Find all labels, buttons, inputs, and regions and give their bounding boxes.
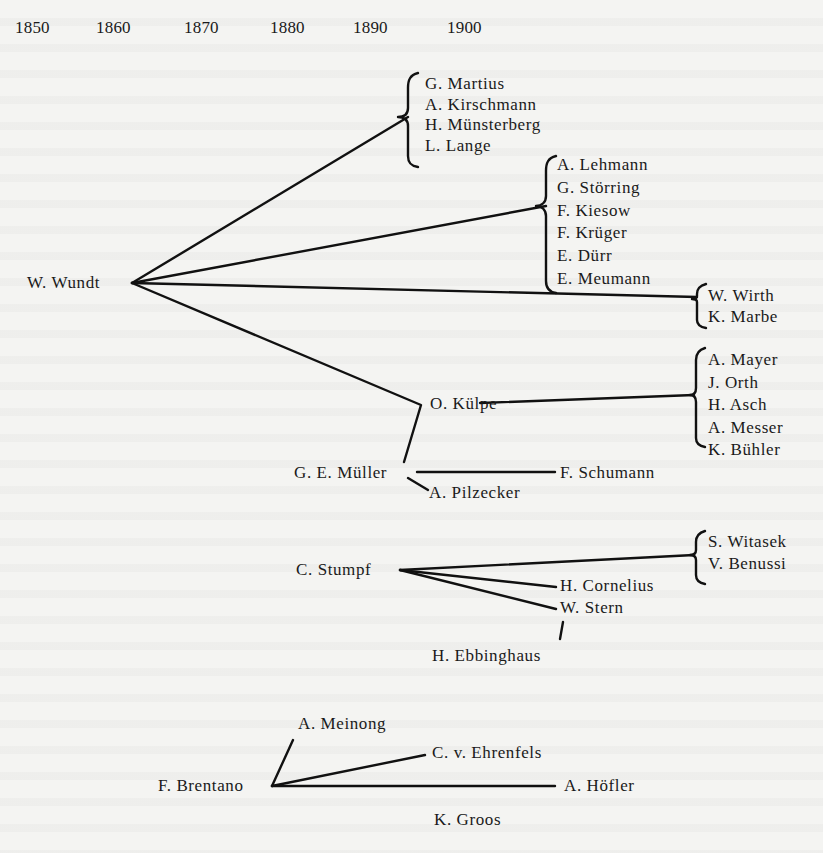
- node-ehrenfels: C. v. Ehrenfels: [432, 743, 542, 763]
- node-lehmann: A. Lehmann: [557, 154, 651, 177]
- node-schumann: F. Schumann: [560, 463, 655, 483]
- node-messer: A. Messer: [708, 417, 783, 440]
- edge-muller-pilzecker: [408, 478, 428, 490]
- node-munsterberg: H. Münsterberg: [425, 115, 541, 136]
- brace-stumpf-group: [690, 531, 705, 584]
- edge-stern-ebbinghaus: [560, 622, 563, 639]
- edge-stumpf-cornelius: [400, 570, 556, 587]
- kulpe-students: A. Mayer J. Orth H. Asch A. Messer K. Bü…: [708, 349, 783, 462]
- edge-wundt-kulpe-muller: [132, 283, 421, 462]
- brace-kulpe-students: [690, 348, 705, 447]
- node-groos: K. Groos: [434, 810, 501, 830]
- node-durr: E. Dürr: [557, 245, 651, 268]
- edge-kulpe-students: [480, 395, 694, 403]
- edge-stumpf-stern: [400, 570, 556, 609]
- node-cornelius: H. Cornelius: [560, 576, 654, 596]
- node-marbe: K. Marbe: [708, 306, 778, 327]
- node-muller: G. E. Müller: [294, 463, 387, 483]
- node-kulpe: O. Külpe: [430, 394, 497, 414]
- node-kiesow: F. Kiesow: [557, 200, 651, 223]
- node-wirth: W. Wirth: [708, 285, 778, 306]
- node-pilzecker: A. Pilzecker: [429, 483, 520, 503]
- stumpf-group: S. Witasek V. Benussi: [708, 531, 787, 575]
- node-meinong: A. Meinong: [298, 714, 386, 734]
- node-stern: W. Stern: [560, 598, 624, 618]
- node-lange: L. Lange: [425, 136, 541, 157]
- wundt-group3: W. Wirth K. Marbe: [708, 285, 778, 327]
- wundt-group1: G. Martius A. Kirschmann H. Münsterberg …: [425, 74, 541, 156]
- genealogy-diagram: 1850 1860 1870 1880 1890 1900: [0, 0, 823, 853]
- brace-group3: [692, 284, 706, 328]
- node-martius: G. Martius: [425, 74, 541, 95]
- edge-brentano-meinong: [272, 740, 293, 786]
- node-brentano: F. Brentano: [158, 776, 244, 796]
- node-asch: H. Asch: [708, 394, 783, 417]
- brace-group2: [536, 156, 556, 293]
- edge-stumpf-group: [400, 555, 694, 570]
- node-benussi: V. Benussi: [708, 553, 787, 575]
- node-ebbinghaus: H. Ebbinghaus: [432, 646, 541, 666]
- node-buhler: K. Bühler: [708, 439, 783, 462]
- node-kirschmann: A. Kirschmann: [425, 95, 541, 116]
- node-storring: G. Störring: [557, 177, 651, 200]
- node-witasek: S. Witasek: [708, 531, 787, 553]
- wundt-group2: A. Lehmann G. Störring F. Kiesow F. Krüg…: [557, 154, 651, 291]
- node-wundt: W. Wundt: [27, 273, 100, 293]
- edge-brentano-ehrenfels: [272, 755, 425, 786]
- node-orth: J. Orth: [708, 372, 783, 395]
- node-mayer: A. Mayer: [708, 349, 783, 372]
- node-stumpf: C. Stumpf: [296, 560, 371, 580]
- connector-lines: [0, 0, 823, 853]
- node-hofler: A. Höfler: [564, 776, 635, 796]
- node-meumann: E. Meumann: [557, 268, 651, 291]
- node-kruger: F. Krüger: [557, 222, 651, 245]
